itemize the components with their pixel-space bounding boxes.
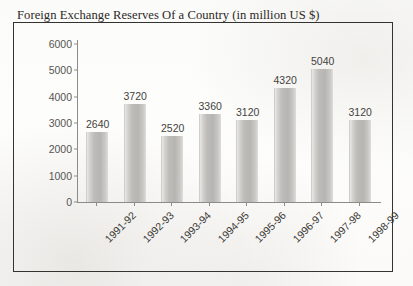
bar: [349, 120, 371, 202]
bar-group: 43201996-97: [266, 44, 304, 202]
bar: [86, 132, 108, 202]
bar-group: 50401997-98: [303, 44, 341, 202]
bar-value-label: 5040: [311, 55, 332, 67]
bar-value-label: 3120: [236, 106, 257, 118]
bar-group: 33601994-95: [191, 44, 229, 202]
bar: [161, 136, 183, 202]
bar-group: 31201995-96: [228, 44, 266, 202]
x-axis-tick-mark: [134, 202, 135, 206]
x-axis-tick-mark: [96, 202, 97, 206]
y-axis-tick-label: 4000: [49, 91, 72, 103]
y-axis-tick-label: 3000: [49, 117, 72, 129]
y-axis-tick-label: 5000: [49, 64, 72, 76]
bar-chart-figure: Foreign Exchange Reserves Of a Country (…: [0, 0, 413, 286]
x-axis-tick-mark: [209, 202, 210, 206]
bar-group: 25201993-94: [153, 44, 191, 202]
bar-value-label: 2520: [161, 122, 182, 134]
bar-value-label: 3720: [124, 90, 145, 102]
y-axis-tick-label: 6000: [49, 38, 72, 50]
x-axis-tick-mark: [246, 202, 247, 206]
bar: [274, 88, 296, 202]
plot-area: 0100020003000400050006000 26401991-92372…: [78, 44, 378, 202]
bar: [311, 69, 333, 202]
chart-title: Foreign Exchange Reserves Of a Country (…: [17, 8, 397, 23]
bar-group: 37201992-93: [116, 44, 154, 202]
x-axis-tick-mark: [321, 202, 322, 206]
bar: [124, 104, 146, 202]
bar: [236, 120, 258, 202]
x-axis-tick-mark: [359, 202, 360, 206]
bar-value-label: 3120: [349, 106, 370, 118]
bar-group: 26401991-92: [78, 44, 116, 202]
bar-value-label: 2640: [86, 118, 107, 130]
x-axis-tick-mark: [171, 202, 172, 206]
y-axis-tick-label: 2000: [49, 143, 72, 155]
y-axis-tick-label: 1000: [49, 170, 72, 182]
bar: [199, 114, 221, 202]
bar-value-label: 3360: [199, 100, 220, 112]
bar-group: 31201998-99: [341, 44, 379, 202]
y-axis-tick-label: 0: [66, 196, 72, 208]
bar-value-label: 4320: [274, 74, 295, 86]
x-axis-tick-mark: [284, 202, 285, 206]
x-axis-line: [77, 202, 381, 203]
